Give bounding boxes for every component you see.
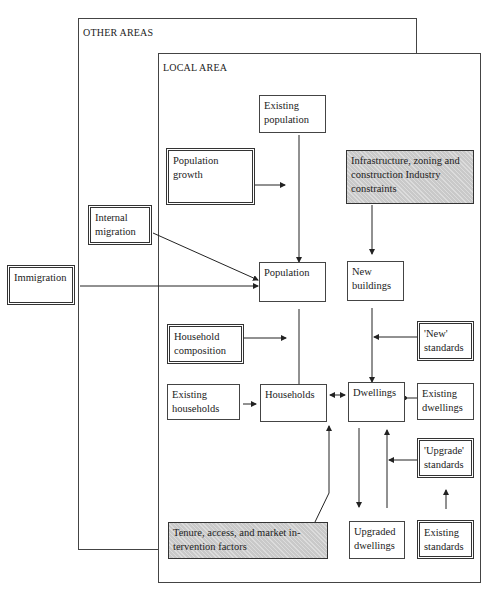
node-immigration: Immigration bbox=[7, 265, 75, 305]
connector-lines bbox=[0, 0, 500, 599]
node-upgraded-dwellings: Upgraded dwellings bbox=[349, 521, 405, 559]
node-household-composition: Household composition bbox=[167, 324, 244, 364]
node-tenure-factors: Tenure, access, and market in-tervention… bbox=[168, 522, 328, 559]
node-existing-population: Existing population bbox=[259, 95, 326, 133]
node-dwellings: Dwellings bbox=[348, 382, 405, 422]
node-population-growth: Population growth bbox=[166, 148, 255, 205]
node-existing-dwellings: Existing dwellings bbox=[417, 383, 474, 420]
node-existing-standards: Existing standards bbox=[417, 520, 474, 559]
node-infrastructure-constraints: Infrastructure, zoning and construction … bbox=[346, 150, 474, 204]
node-population: Population bbox=[259, 262, 326, 302]
node-upgrade-standards: 'Upgrade' standards bbox=[417, 438, 474, 478]
node-new-buildings: New buildings bbox=[347, 261, 404, 301]
node-internal-migration: Internal migration bbox=[88, 205, 152, 245]
node-existing-households: Existing households bbox=[167, 384, 240, 420]
node-households: Households bbox=[260, 384, 327, 422]
node-new-standards: 'New' standards bbox=[417, 321, 474, 361]
